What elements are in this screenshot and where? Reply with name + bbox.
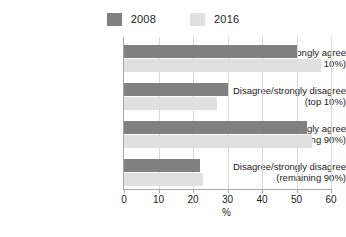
- bar-2016: [124, 135, 312, 148]
- legend-label-2008: 2008: [131, 14, 156, 25]
- x-axis-tick-label: 50: [291, 194, 302, 205]
- x-axis-tick-label: 0: [121, 194, 127, 205]
- bar-2008: [124, 159, 200, 172]
- bar-group: [124, 121, 331, 148]
- x-axis-tick: [262, 189, 263, 193]
- legend-entry-2008: 2008: [107, 13, 156, 26]
- bar-2016: [124, 173, 203, 186]
- bar-2008: [124, 121, 307, 134]
- x-axis-tick: [193, 189, 194, 193]
- x-axis-title: %: [222, 207, 231, 218]
- legend-swatch-2008: [107, 13, 122, 26]
- x-axis-tick: [124, 189, 125, 193]
- bar-chart: 2008 2016 Agree/strongly agree(top 10%)D…: [0, 0, 346, 237]
- x-axis-tick: [297, 189, 298, 193]
- bar-2016: [124, 59, 321, 72]
- x-axis-tick: [159, 189, 160, 193]
- legend-label-2016: 2016: [214, 14, 239, 25]
- x-axis-tick-label: 60: [325, 194, 336, 205]
- bar-group: [124, 45, 331, 72]
- x-axis-tick-label: 40: [256, 194, 267, 205]
- bar-2008: [124, 45, 297, 58]
- x-axis-tick-label: 20: [187, 194, 198, 205]
- x-axis-tick-label: 10: [153, 194, 164, 205]
- x-axis-tick-label: 30: [222, 194, 233, 205]
- x-axis-tick: [331, 189, 332, 193]
- x-axis-tick: [228, 189, 229, 193]
- bar-2008: [124, 83, 228, 96]
- bar-group: [124, 159, 331, 186]
- chart-legend: 2008 2016: [0, 8, 346, 30]
- plot-area: 0102030405060: [123, 37, 331, 190]
- gridline: [331, 37, 332, 189]
- legend-swatch-2016: [190, 13, 205, 26]
- bar-group: [124, 83, 331, 110]
- bar-2016: [124, 97, 217, 110]
- legend-entry-2016: 2016: [190, 13, 239, 26]
